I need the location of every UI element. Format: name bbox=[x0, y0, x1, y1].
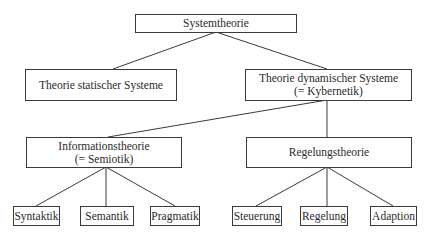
edge-root-static bbox=[113, 32, 216, 69]
node-regelung: Regelung bbox=[300, 206, 348, 226]
node-syntaktik: Syntaktik bbox=[13, 206, 60, 226]
node-theorie-statischer-systeme: Theorie statischer Systeme bbox=[25, 69, 177, 101]
connector-lines bbox=[0, 0, 433, 236]
edge-root-dynamic bbox=[216, 32, 327, 69]
node-pragmatik: Pragmatik bbox=[150, 206, 200, 226]
node-adaption: Adaption bbox=[370, 206, 417, 226]
node-steuerung: Steuerung bbox=[232, 206, 282, 226]
edge-control-adaption bbox=[327, 167, 393, 206]
node-label-line2: (= Kybernetik) bbox=[294, 85, 363, 98]
edge-information-syntaktik bbox=[36, 167, 106, 206]
node-label: Theorie statischer Systeme bbox=[39, 79, 163, 92]
node-label: Regelung bbox=[302, 210, 346, 223]
edge-information-pragmatik bbox=[106, 167, 175, 206]
node-theorie-dynamischer-systeme: Theorie dynamischer Systeme (= Kyberneti… bbox=[245, 69, 412, 101]
node-informationstheorie: Informationstheorie (= Semiotik) bbox=[26, 137, 182, 168]
node-label: Steuerung bbox=[234, 210, 281, 223]
node-label-line1: Theorie dynamischer Systeme bbox=[259, 72, 398, 85]
edge-dynamic-information bbox=[108, 100, 327, 137]
node-label: Pragmatik bbox=[151, 210, 198, 223]
edge-control-steuerung bbox=[256, 167, 327, 206]
node-regelungstheorie: Regelungstheorie bbox=[246, 137, 412, 168]
node-label: Systemtheorie bbox=[183, 17, 249, 30]
node-label: Adaption bbox=[372, 210, 415, 223]
node-systemtheorie: Systemtheorie bbox=[135, 14, 297, 33]
node-semantik: Semantik bbox=[80, 206, 134, 226]
node-label: Syntaktik bbox=[14, 210, 58, 223]
systemtheorie-diagram: Systemtheorie Theorie statischer Systeme… bbox=[0, 0, 433, 236]
node-label-line2: (= Semiotik) bbox=[75, 153, 134, 166]
node-label: Regelungstheorie bbox=[289, 146, 369, 159]
node-label: Semantik bbox=[85, 210, 128, 223]
node-label-line1: Informationstheorie bbox=[58, 140, 149, 153]
